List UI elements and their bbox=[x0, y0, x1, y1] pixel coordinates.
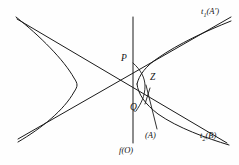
label-point-p: P bbox=[121, 54, 127, 64]
label-point-z: Z bbox=[150, 73, 155, 83]
label-point-q: Q bbox=[130, 103, 137, 113]
label-f-argument: (O) bbox=[121, 145, 133, 155]
label-line-t1: t1(A') bbox=[201, 7, 219, 18]
label-line-f-o: f(O) bbox=[119, 146, 133, 155]
hyperbola-figure: P Z Q t1(A') t2(B) f(O) (A) bbox=[0, 0, 239, 165]
label-t1-argument: (A') bbox=[206, 6, 219, 16]
label-point-a: (A) bbox=[145, 131, 156, 140]
label-t2-argument: (B) bbox=[205, 130, 216, 140]
segment-z-to-a bbox=[146, 85, 157, 129]
label-line-t2: t2(B) bbox=[200, 131, 216, 142]
